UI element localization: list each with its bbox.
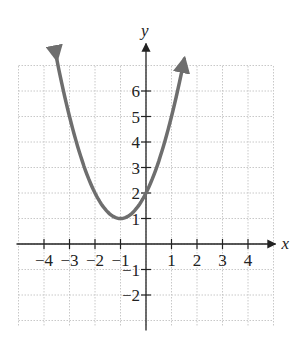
y-tick-label: −1 (122, 261, 140, 280)
y-tick-label: −2 (122, 286, 140, 305)
x-tick-label: −3 (60, 251, 78, 270)
axes (17, 44, 276, 331)
y-axis-label: y (139, 21, 149, 40)
x-axis-label: x (281, 234, 290, 253)
x-tick-label: −2 (86, 251, 104, 270)
x-tick-label: 4 (244, 251, 253, 270)
parabola-chart: −4−3−2−11234−2−1123456 x y (0, 0, 299, 338)
x-tick-label: 3 (218, 251, 227, 270)
x-tick-label: 1 (167, 251, 176, 270)
x-tick-label: −4 (35, 251, 54, 270)
x-tick-label: 2 (193, 251, 202, 270)
y-tick-label: 5 (132, 108, 141, 127)
y-tick-label: 2 (132, 184, 141, 203)
y-tick-label: 3 (132, 159, 141, 178)
y-tick-label: 6 (132, 82, 141, 101)
y-tick-label: 4 (132, 133, 141, 152)
